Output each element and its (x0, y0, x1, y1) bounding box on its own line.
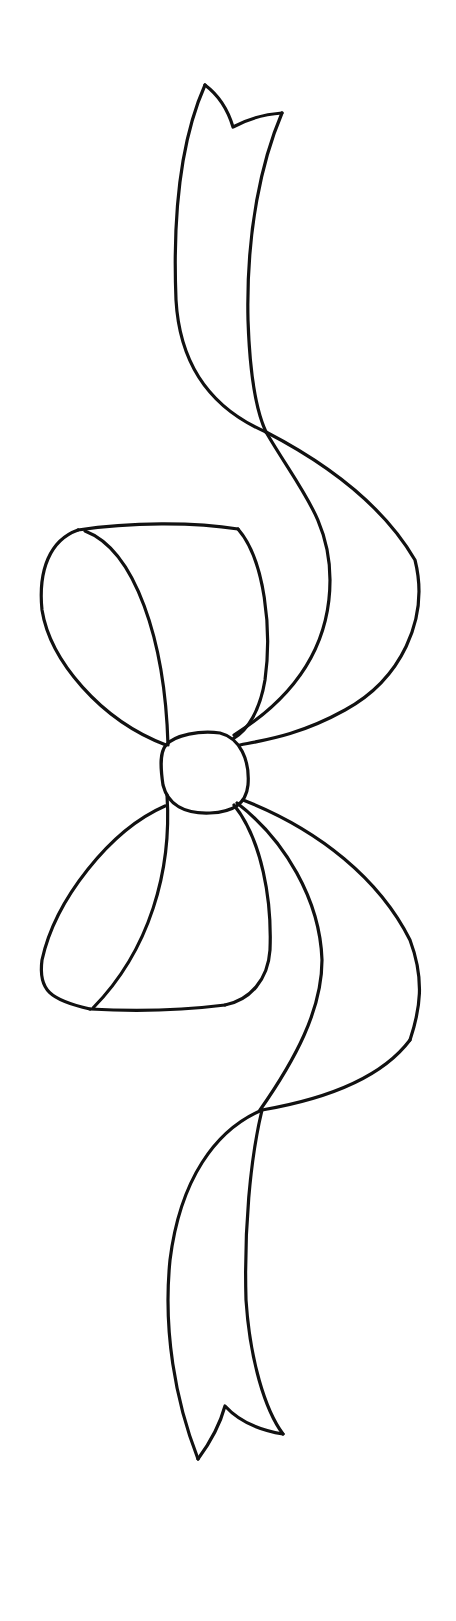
bow-drawing-canvas (0, 0, 456, 1621)
lower-ribbon-tail (168, 1110, 283, 1459)
lower-left-loop (41, 795, 270, 1010)
lower-right-streamers (237, 800, 419, 1110)
center-knot (161, 732, 248, 813)
upper-ribbon-tail (175, 85, 419, 745)
bow-ribbon-illustration (0, 0, 456, 1621)
upper-left-loop (41, 524, 267, 745)
